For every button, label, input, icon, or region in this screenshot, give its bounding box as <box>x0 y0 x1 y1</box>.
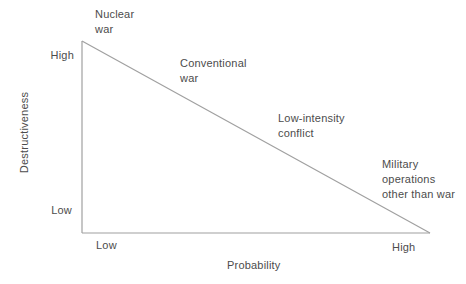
x-axis-tick-high: High <box>392 240 415 255</box>
y-axis-title: Destructiveness <box>17 63 32 203</box>
y-axis-tick-high: High <box>46 48 74 63</box>
trend-line <box>82 41 430 233</box>
point-label-low-intensity-conflict: Low-intensity conflict <box>278 111 345 141</box>
x-axis-tick-low: Low <box>96 238 117 253</box>
x-axis-title: Probability <box>227 258 281 273</box>
y-axis-tick-low: Low <box>44 203 72 218</box>
point-label-military-operations-other-than-war: Military operations other than war <box>382 157 455 202</box>
point-label-conventional-war: Conventional war <box>180 56 247 86</box>
conflict-spectrum-diagram: Nuclear war Conventional war Low-intensi… <box>0 0 466 284</box>
point-label-nuclear-war: Nuclear war <box>95 7 134 37</box>
